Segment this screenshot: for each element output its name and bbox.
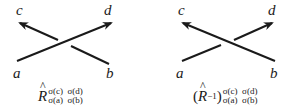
inverse-exponent: −1 xyxy=(207,91,217,101)
label-b: b xyxy=(270,66,278,81)
under-strand-a-to-d-lower xyxy=(182,45,221,61)
label-d: d xyxy=(268,3,276,18)
crossing-diagram-right: c d a b ( ^ R −1 ) σ(c) σ(d) σ(a) σ(b) xyxy=(145,0,291,109)
subscript-indices: σ(a) σ(b) xyxy=(48,96,83,105)
r-hat-symbol: ^ R xyxy=(38,88,47,105)
label-a: a xyxy=(176,66,184,81)
r-hat-symbol: ^ R xyxy=(198,88,207,105)
under-strand-b-to-c-lower xyxy=(71,46,109,64)
index-scripts: σ(c) σ(d) σ(a) σ(b) xyxy=(223,87,258,105)
label-d: d xyxy=(104,3,112,18)
close-paren: ) xyxy=(217,88,222,105)
label-a: a xyxy=(13,66,21,81)
r-inverse-matrix-formula: ( ^ R −1 ) σ(c) σ(d) σ(a) σ(b) xyxy=(193,87,257,105)
label-c: c xyxy=(16,3,23,18)
label-c: c xyxy=(178,3,185,18)
under-strand-a-to-d-upper xyxy=(234,23,272,40)
label-b: b xyxy=(106,66,114,81)
index-scripts: σ(c) σ(d) σ(a) σ(b) xyxy=(48,87,83,105)
subscript-indices: σ(a) σ(b) xyxy=(223,96,258,105)
crossing-diagram-left: c d a b ^ R σ(c) σ(d) σ(a) σ(b) xyxy=(0,0,145,109)
r-matrix-formula: ^ R σ(c) σ(d) σ(a) σ(b) xyxy=(38,87,83,105)
under-strand-b-to-c-upper xyxy=(20,23,58,40)
